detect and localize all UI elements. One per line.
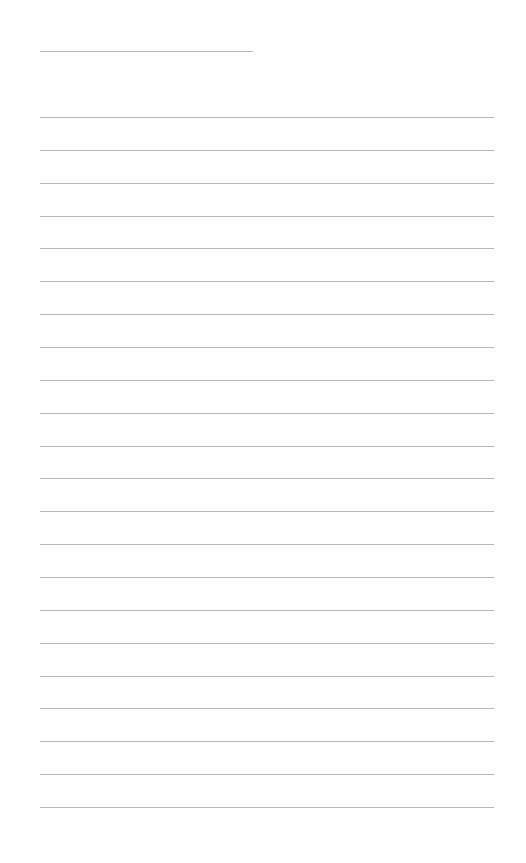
ruled-line [40, 774, 494, 775]
ruled-line [40, 577, 494, 578]
ruled-line [40, 708, 494, 709]
ruled-line [40, 511, 494, 512]
ruled-line [40, 248, 494, 249]
ruled-line [40, 807, 494, 808]
ruled-line [40, 478, 494, 479]
ruled-line [40, 281, 494, 282]
lined-page [0, 0, 526, 863]
ruled-line [40, 314, 494, 315]
ruled-line [40, 216, 494, 217]
ruled-line [40, 643, 494, 644]
ruled-line [40, 676, 494, 677]
ruled-line [40, 183, 494, 184]
ruled-line [40, 117, 494, 118]
ruled-line [40, 380, 494, 381]
ruled-line [40, 446, 494, 447]
ruled-line [40, 413, 494, 414]
ruled-line [40, 741, 494, 742]
ruled-line [40, 150, 494, 151]
ruled-line [40, 347, 494, 348]
ruled-line [40, 610, 494, 611]
header-title-line [40, 51, 253, 52]
ruled-line [40, 544, 494, 545]
